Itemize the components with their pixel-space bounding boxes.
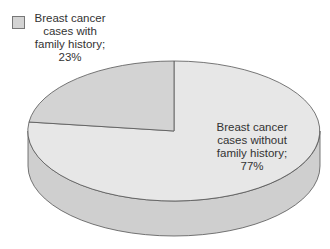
legend-swatch-family-history	[12, 16, 25, 29]
legend-line: family history;	[30, 38, 110, 51]
slice-with-family-history[interactable]	[29, 61, 174, 131]
slice-label-line: Breast cancer	[202, 121, 302, 134]
legend-label-family-history: Breast cancer cases with family history;…	[30, 12, 110, 64]
legend-line: Breast cancer	[30, 12, 110, 25]
legend-line: cases with	[30, 25, 110, 38]
slice-label-line: cases without	[202, 134, 302, 147]
legend-line: 23%	[30, 51, 110, 64]
slice-label-without-family-history: Breast cancer cases without family histo…	[202, 121, 302, 173]
slice-label-line: 77%	[202, 160, 302, 173]
slice-label-line: family history;	[202, 147, 302, 160]
